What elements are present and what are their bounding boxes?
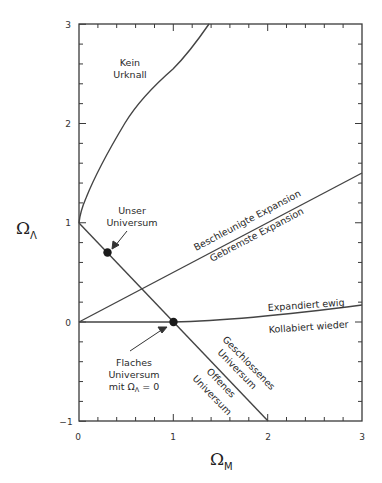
x-tick-3: 3 [359,432,365,442]
y-axis-label: ΩΛ [16,218,37,241]
cosmology-chart: 3 2 1 0 −1 0 1 2 3 ΩΛ ΩM Kein Urknall Un… [0,0,382,483]
label-kollabiert: Kollabiert wieder [268,318,349,335]
x-tick-1: 1 [170,432,176,442]
label-expandiert: Expandiert ewig [267,297,345,313]
label-flaches-universum: Universum [108,369,159,380]
label-mit-omega: mit ΩΛ = 0 [109,381,159,394]
x-tick-0: 0 [75,432,81,442]
arrowhead-icon [158,327,167,333]
arrow-flat-universe [130,329,163,351]
label-unser: Unser [118,205,146,216]
no-big-bang-curve [79,24,209,223]
label-kein: Kein [120,57,140,68]
x-tick-2: 2 [265,432,271,442]
y-tick-3: 3 [65,20,71,30]
our-universe-point [103,248,111,256]
y-tick-1: 1 [65,218,71,228]
label-flaches: Flaches [116,357,152,368]
y-tick-2: 2 [65,119,71,129]
x-axis-label: ΩM [210,449,233,472]
flat-universe-point [169,318,177,326]
label-urknall: Urknall [113,69,146,80]
y-tick-minus1: −1 [59,417,72,427]
arrows [112,231,167,351]
label-universum: Universum [106,217,157,228]
y-tick-0: 0 [65,318,71,328]
